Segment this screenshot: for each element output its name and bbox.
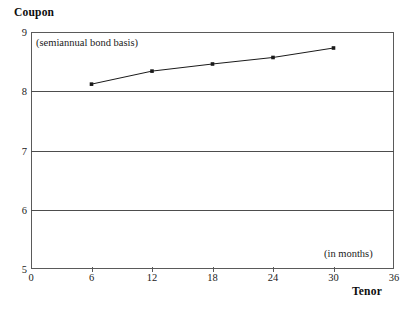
data-point-marker xyxy=(332,46,336,50)
y-tick-label: 9 xyxy=(22,27,27,38)
y-axis-title: Coupon xyxy=(14,6,54,18)
x-tick-label: 30 xyxy=(328,272,339,283)
y-tick-label: 8 xyxy=(22,86,27,97)
x-tick-label: 24 xyxy=(268,272,279,283)
in-months-note: (in months) xyxy=(324,248,373,259)
semiannual-bond-basis-note: (semiannual bond basis) xyxy=(36,37,138,48)
data-point-marker xyxy=(211,62,215,66)
x-axis-tick-labels: 061218243036 xyxy=(31,272,394,288)
y-axis-tick-labels: 56789 xyxy=(0,32,27,269)
series-line-path xyxy=(92,48,334,84)
x-axis-title: Tenor xyxy=(352,285,382,297)
y-tick-label: 6 xyxy=(22,204,27,215)
x-tick-mark xyxy=(273,267,274,272)
y-tick-label: 5 xyxy=(22,264,27,275)
x-tick-mark xyxy=(92,267,93,272)
data-point-marker xyxy=(150,69,154,73)
x-tick-label: 18 xyxy=(207,272,218,283)
x-tick-label: 0 xyxy=(28,272,33,283)
data-point-marker xyxy=(271,56,275,60)
x-tick-mark xyxy=(334,267,335,272)
x-tick-mark xyxy=(213,267,214,272)
x-tick-label: 12 xyxy=(147,272,158,283)
data-point-marker xyxy=(90,82,94,86)
x-tick-label: 36 xyxy=(389,272,400,283)
x-tick-mark xyxy=(152,267,153,272)
y-tick-label: 7 xyxy=(22,145,27,156)
coupon-tenor-chart: Coupon 56789 (semiannual bond basis) (in… xyxy=(0,0,418,311)
plot-area: (semiannual bond basis) (in months) xyxy=(31,32,394,269)
coupon-line-series xyxy=(31,32,394,269)
x-tick-label: 6 xyxy=(89,272,94,283)
series-markers xyxy=(90,46,336,86)
